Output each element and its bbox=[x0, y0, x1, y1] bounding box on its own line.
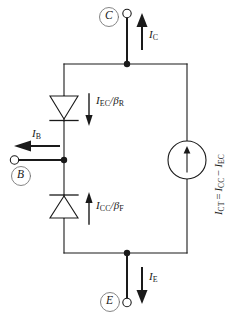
cc-subscript: CC bbox=[217, 178, 226, 188]
collector-terminal-label: C bbox=[105, 10, 113, 22]
ct-subscript: CT bbox=[217, 202, 226, 212]
emitter-current-label: IE bbox=[149, 271, 158, 282]
cc-symbol: I bbox=[213, 188, 224, 192]
reverse-diode-current-label: IEC/βR bbox=[96, 95, 124, 106]
circuit-diagram-canvas: C B E IC IB IE IEC/βR ICC/βF ICT=ICC−IEC bbox=[0, 0, 229, 319]
reverse-denominator-subscript: R bbox=[119, 99, 124, 108]
collector-current-subscript: C bbox=[153, 33, 158, 42]
base-current-subscript: B bbox=[36, 132, 41, 141]
ct-equals: = bbox=[213, 194, 224, 200]
emitter-node-circle bbox=[123, 298, 131, 306]
ct-symbol: I bbox=[213, 211, 224, 215]
collector-current-arrow-head bbox=[137, 13, 148, 27]
collector-junction-dot bbox=[124, 61, 130, 67]
base-node-circle bbox=[10, 156, 18, 164]
forward-diode-current-arrow-head bbox=[85, 192, 92, 203]
ec-symbol: I bbox=[213, 164, 224, 168]
forward-numerator-subscript: CC bbox=[100, 204, 111, 213]
emitter-junction-dot bbox=[124, 250, 130, 256]
emitter-current-arrow-head bbox=[137, 290, 148, 304]
ct-minus: − bbox=[213, 170, 224, 176]
emitter-terminal-label: E bbox=[106, 295, 113, 307]
base-current-label: IB bbox=[32, 128, 41, 139]
reverse-denominator-symbol: β bbox=[113, 94, 119, 106]
forward-diode-current-label: ICC/βF bbox=[96, 200, 124, 211]
collector-current-label: IC bbox=[149, 29, 158, 40]
ec-subscript: EC bbox=[217, 154, 226, 164]
base-current-arrow-head bbox=[14, 141, 31, 152]
emitter-current-subscript: E bbox=[153, 275, 158, 284]
collector-node-circle bbox=[123, 9, 131, 17]
current-source-equation-label: ICT=ICC−IEC bbox=[214, 154, 225, 215]
base-terminal-label: B bbox=[17, 169, 24, 181]
reverse-diode-triangle bbox=[50, 96, 78, 119]
forward-denominator-subscript: F bbox=[119, 204, 124, 213]
base-junction-dot bbox=[61, 157, 67, 163]
circuit-schematic-svg bbox=[0, 0, 229, 319]
reverse-numerator-subscript: EC bbox=[100, 99, 110, 108]
reverse-diode-current-arrow-head bbox=[85, 115, 92, 126]
forward-diode-triangle bbox=[50, 196, 78, 218]
